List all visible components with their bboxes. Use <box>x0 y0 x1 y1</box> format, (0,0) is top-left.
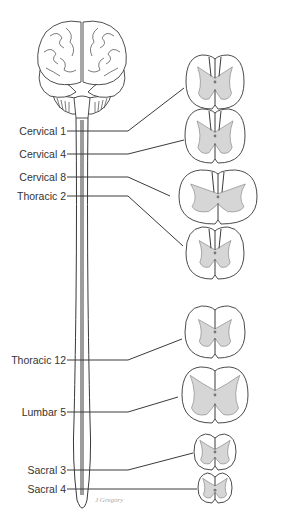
central-canal <box>214 331 217 334</box>
level-l5: Lumbar 5 <box>22 397 178 418</box>
leader-line <box>67 397 178 412</box>
central-canal <box>214 135 217 138</box>
central-canal <box>214 81 217 84</box>
cross-section-t2 <box>186 227 244 279</box>
level-label: Thoracic 12 <box>11 354 66 366</box>
cross-section-s4 <box>198 473 232 503</box>
leader-line <box>67 339 182 360</box>
level-t2: Thoracic 2 <box>17 190 183 247</box>
level-s4: Sacral 4 <box>27 483 197 495</box>
cross-section-t12 <box>185 306 245 358</box>
central-canal <box>217 196 220 199</box>
cross-section-l5 <box>182 367 248 423</box>
level-label: Lumbar 5 <box>22 406 67 418</box>
level-label: Cervical 4 <box>19 148 66 160</box>
cross-section-c1 <box>186 55 244 109</box>
level-c4: Cervical 4 <box>19 140 184 160</box>
level-label: Sacral 3 <box>27 464 66 476</box>
central-canal <box>214 394 217 397</box>
leader-line <box>67 140 184 154</box>
level-t12: Thoracic 12 <box>11 339 182 366</box>
level-label: Sacral 4 <box>27 483 66 495</box>
level-label: Cervical 1 <box>19 125 66 137</box>
central-canal <box>214 252 217 255</box>
cross-section-c8 <box>179 170 257 224</box>
artist-signature: J Gregory <box>95 496 124 504</box>
leader-line <box>67 453 193 470</box>
central-canal <box>214 489 217 492</box>
central-canal <box>214 451 217 454</box>
cross-section-c4 <box>185 109 245 163</box>
cross-section-s3 <box>194 434 236 470</box>
level-s3: Sacral 3 <box>27 453 193 476</box>
leader-line <box>67 196 183 246</box>
brain-illustration <box>38 21 127 118</box>
level-label: Cervical 8 <box>19 171 66 183</box>
leader-line <box>67 177 170 196</box>
spinal-cord-diagram: Cervical 1Cervical 4Cervical 8Thoracic 2… <box>0 0 283 526</box>
level-label: Thoracic 2 <box>17 190 66 202</box>
